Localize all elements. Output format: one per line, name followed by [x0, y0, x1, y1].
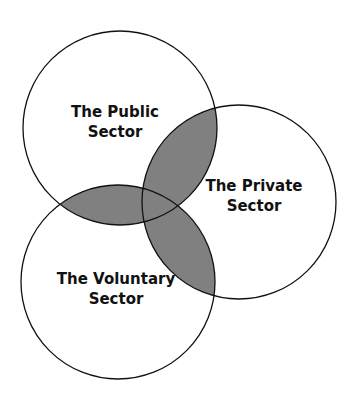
- label-voluntary-line2: Sector: [89, 290, 144, 308]
- label-public-line2: Sector: [88, 123, 143, 141]
- venn-diagram: The Public Sector The Private Sector The…: [0, 0, 356, 398]
- label-public-line1: The Public: [71, 103, 159, 121]
- label-private-line2: Sector: [227, 197, 282, 215]
- label-private-line1: The Private: [205, 177, 302, 195]
- label-voluntary-line1: The Voluntary: [57, 270, 176, 288]
